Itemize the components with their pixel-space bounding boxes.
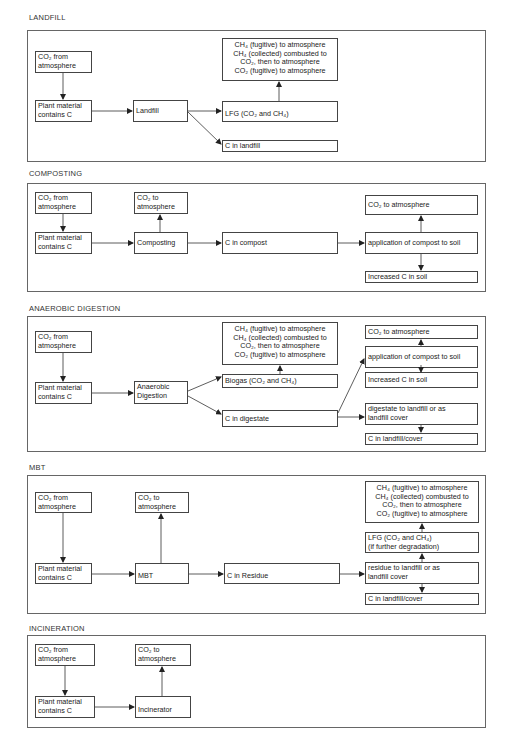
mbt-plant-material-box: Plant material contains C: [35, 563, 92, 584]
incin-plant-material-box: Plant material contains C: [35, 696, 95, 718]
box-line: landfill cover: [368, 573, 476, 582]
box-label: Composting: [137, 239, 175, 248]
box-label: Biogas (CO₂ and CH₄): [225, 377, 297, 386]
box-label: C in landfill: [225, 142, 260, 151]
box-label: C in landfill/cover: [368, 435, 423, 444]
ad-digestate-to-landfill-box: digestate to landfill or as landfill cov…: [365, 403, 478, 425]
composting-process-box: Composting: [134, 232, 188, 254]
mbt-gas-outcomes-box: CH₄ (fugitive) to atmosphere CH₄ (collec…: [365, 481, 479, 523]
box-line: atmosphere: [38, 62, 89, 71]
landfill-co2-from-atmosphere-box: CO₂ from atmosphere: [35, 51, 92, 73]
landfill-process-box: Landfill: [133, 100, 188, 122]
mbt-co2-to-atmosphere-box: CO₂ to atmosphere: [135, 492, 189, 513]
composting-application-box: application of compost to soil: [365, 232, 478, 254]
box-line: CO₂ (fugitive) to atmosphere: [225, 67, 335, 76]
composting-co2-to-atmosphere-box: CO₂ to atmosphere: [134, 192, 188, 214]
box-label: CO₂ to atmosphere: [368, 201, 430, 210]
box-line: atmosphere: [38, 655, 92, 664]
box-label: LFG (CO₂ and CH₄): [225, 110, 289, 119]
incineration-frame: [27, 635, 486, 728]
landfill-plant-material-box: Plant material contains C: [35, 100, 92, 122]
landfill-lfg-box: LFG (CO₂ and CH₄): [222, 101, 338, 122]
box-line: contains C: [38, 111, 89, 120]
box-label: C in digestate: [225, 415, 269, 424]
incin-process-box: Incinerator: [135, 696, 191, 718]
box-line: atmosphere: [38, 342, 89, 351]
box-label: MBT: [138, 572, 153, 581]
ad-co2-from-atmosphere-box: CO₂ from atmosphere: [35, 331, 92, 353]
box-label: Incinerator: [138, 706, 172, 715]
box-label: Increased C in soil: [368, 273, 427, 282]
ad-co2-to-atm-box: CO₂ to atmosphere: [365, 325, 478, 339]
box-label: C in landfill/cover: [368, 595, 423, 604]
box-label: C in compost: [225, 239, 267, 248]
section-title-incineration: INCINERATION: [29, 624, 85, 633]
box-line: Digestion: [137, 392, 185, 401]
box-line: atmosphere: [38, 503, 89, 512]
mbt-co2-from-atmosphere-box: CO₂ from atmosphere: [35, 492, 92, 513]
ad-c-in-landfill-cover-box: C in landfill/cover: [365, 433, 478, 445]
composting-co2-to-atm-box: CO₂ to atmosphere: [365, 195, 478, 215]
composting-co2-from-atmosphere-box: CO₂ from atmosphere: [35, 192, 92, 214]
box-label: application of compost to soil: [368, 353, 460, 362]
ad-application-box: application of compost to soil: [365, 346, 478, 368]
box-line: contains C: [38, 393, 89, 402]
box-line: atmosphere: [38, 203, 89, 212]
box-line: contains C: [38, 707, 92, 716]
mbt-c-in-landfill-cover-box: C in landfill/cover: [365, 593, 479, 605]
box-line: contains C: [38, 243, 89, 252]
mbt-c-in-residue-box: C in Residue: [224, 563, 340, 584]
landfill-c-in-landfill-box: C in landfill: [222, 140, 338, 152]
landfill-gas-outcomes-box: CH₄ (fugitive) to atmosphere CH₄ (collec…: [222, 38, 338, 81]
box-line: (if further degradation): [368, 543, 476, 552]
section-title-landfill: LANDFILL: [29, 13, 66, 22]
section-title-mbt: MBT: [29, 463, 45, 472]
mbt-residue-to-landfill-box: residue to landfill or as landfill cover: [365, 562, 479, 584]
box-label: Landfill: [136, 107, 159, 116]
incin-co2-from-atmosphere-box: CO₂ from atmosphere: [35, 644, 95, 666]
box-line: atmosphere: [138, 655, 188, 664]
composting-plant-material-box: Plant material contains C: [35, 232, 92, 254]
box-line: landfill cover: [368, 414, 475, 423]
ad-process-box: Anaerobic Digestion: [134, 381, 188, 404]
composting-increased-c-box: Increased C in soil: [365, 271, 478, 283]
section-title-anaerobic-digestion: ANAEROBIC DIGESTION: [29, 304, 120, 313]
box-label: application of compost to soil: [368, 239, 460, 248]
box-label: Increased C in soil: [368, 376, 427, 385]
box-line: CO₂ (fugitive) to atmosphere: [225, 351, 335, 360]
box-line: CO₂ (fugitive) to atmosphere: [368, 510, 476, 519]
incin-co2-to-atmosphere-box: CO₂ to atmosphere: [135, 644, 191, 666]
box-label: CO₂ to atmosphere: [368, 328, 430, 337]
section-title-composting: COMPOSTING: [29, 169, 82, 178]
mbt-process-box: MBT: [135, 563, 189, 584]
ad-increased-c-box: Increased C in soil: [365, 372, 478, 388]
ad-plant-material-box: Plant material contains C: [35, 382, 92, 404]
ad-biogas-box: Biogas (CO₂ and CH₄): [222, 374, 338, 388]
box-line: contains C: [38, 574, 89, 583]
mbt-lfg-box: LFG (CO₂ and CH₄) (if further degradatio…: [365, 532, 479, 553]
box-line: atmosphere: [138, 503, 186, 512]
ad-c-in-digestate-box: C in digestate: [222, 410, 338, 427]
box-label: C in Residue: [227, 572, 268, 581]
composting-c-in-compost-box: C in compost: [222, 232, 338, 254]
box-line: atmosphere: [137, 203, 185, 212]
ad-gas-outcomes-box: CH₄ (fugitive) to atmosphere CH₄ (collec…: [222, 322, 338, 365]
